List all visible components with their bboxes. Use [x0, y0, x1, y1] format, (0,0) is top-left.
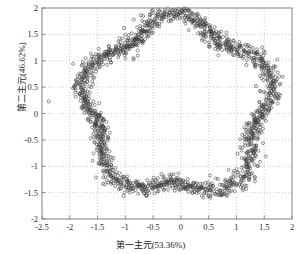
data-point [227, 168, 230, 171]
data-point [222, 35, 225, 38]
data-point [98, 102, 101, 105]
data-point [259, 74, 262, 77]
x-tick-label: -0.5 [146, 222, 159, 232]
data-point [114, 185, 117, 188]
data-point [244, 144, 247, 147]
data-point [209, 174, 212, 177]
pca-scatter-figure: -2.5-2-1.5-1-0.500.511.52-2-1.5-1-0.500.… [0, 0, 301, 254]
data-point [80, 64, 83, 67]
data-point [134, 189, 137, 192]
data-point [72, 62, 75, 65]
data-point [139, 24, 142, 27]
data-point [243, 132, 246, 135]
data-point [250, 172, 253, 175]
data-point [214, 47, 217, 50]
data-point [245, 59, 248, 62]
data-point [117, 40, 120, 43]
data-point [237, 171, 240, 174]
y-tick-label: -1.5 [25, 188, 38, 198]
data-point [225, 31, 228, 34]
x-axis-label: 第一主元(53.36%) [0, 234, 301, 252]
data-point [156, 25, 159, 28]
data-point [243, 126, 246, 129]
data-point-outlier [160, 173, 163, 176]
data-point [89, 52, 92, 55]
data-point-outlier [47, 100, 50, 103]
data-point [156, 186, 159, 189]
data-point [203, 40, 206, 43]
x-tick-label: 0.5 [203, 222, 214, 232]
data-point-outlier [236, 152, 239, 155]
data-point [276, 71, 279, 74]
data-point [92, 83, 95, 86]
data-point [276, 58, 279, 61]
y-tick-label: 1.5 [27, 29, 38, 39]
data-point [240, 156, 243, 159]
data-point [156, 177, 159, 180]
y-tick-label: 2 [34, 3, 38, 13]
data-point-outlier [122, 194, 125, 197]
data-points [47, 7, 284, 199]
data-point [173, 189, 176, 192]
y-tick-label: -1 [31, 161, 38, 171]
x-tick-label: -2 [66, 222, 73, 232]
data-point [264, 155, 267, 158]
data-point [187, 29, 190, 32]
data-point [252, 46, 255, 49]
data-point [79, 99, 82, 102]
data-point [101, 63, 104, 66]
data-point [217, 54, 220, 57]
data-point [260, 53, 263, 56]
data-point [91, 159, 94, 162]
data-point [109, 61, 112, 64]
data-point [136, 26, 139, 29]
data-point [136, 49, 139, 52]
data-point [118, 171, 121, 174]
data-point-outlier [123, 26, 126, 29]
data-point [201, 182, 204, 185]
y-tick-label: 0 [34, 109, 38, 119]
data-point [209, 195, 212, 198]
data-point [104, 176, 107, 179]
data-point [89, 137, 92, 140]
data-point [187, 190, 190, 193]
data-point [245, 188, 248, 191]
plot-canvas: -2.5-2-1.5-1-0.500.511.52-2-1.5-1-0.500.… [0, 0, 301, 254]
data-point [92, 132, 95, 135]
data-point [261, 46, 264, 49]
data-point [74, 95, 77, 98]
x-tick-label: 2 [290, 222, 294, 232]
y-tick-label: 1 [34, 56, 38, 66]
data-point [276, 102, 279, 105]
data-point [130, 32, 133, 35]
axis-ticks: -2.5-2-1.5-1-0.500.511.52-2-1.5-1-0.500.… [25, 3, 295, 232]
data-point [207, 181, 210, 184]
data-point [146, 179, 149, 182]
data-point [172, 173, 175, 176]
data-point [127, 34, 130, 37]
y-axis-label: 第二主元(46.62%) [11, 17, 25, 137]
data-point [279, 82, 282, 85]
data-point [177, 172, 180, 175]
y-tick-label: 0.5 [27, 82, 38, 92]
data-point [92, 100, 95, 103]
y-axis-label-text: 第二主元(46.62%) [17, 42, 27, 112]
data-point [213, 26, 216, 29]
data-point [278, 75, 281, 78]
data-point [253, 180, 256, 183]
data-point [90, 116, 93, 119]
data-point [105, 120, 108, 123]
data-point [114, 166, 117, 169]
data-point [91, 80, 94, 83]
data-point [238, 41, 241, 44]
data-point [136, 54, 139, 57]
data-point [240, 149, 243, 152]
data-point [258, 160, 261, 163]
data-point [239, 138, 242, 141]
data-point-outlier [245, 63, 248, 66]
data-point [105, 63, 108, 66]
data-point [167, 188, 170, 191]
x-axis-label-text: 第一主元(53.36%) [116, 240, 186, 250]
data-point [272, 69, 275, 72]
data-point [225, 35, 228, 38]
